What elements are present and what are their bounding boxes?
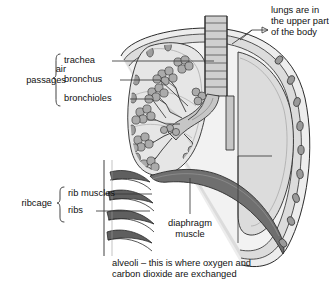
bronchioles-label: bronchioles (64, 93, 112, 104)
rib-muscle-band (107, 170, 154, 243)
alveoli-caption: alveoli – this is where oxygen and carbo… (112, 258, 251, 280)
ribs-label: ribs (68, 205, 83, 216)
rib-muscles-label: rib muscles (68, 188, 115, 199)
ribcage-left (104, 160, 154, 256)
air-passages-group-label: air passages (6, 64, 66, 86)
lung-position-note: lungs are in the upper part of the body (271, 5, 329, 39)
trachea (205, 16, 227, 96)
bronchus-label: bronchus (64, 74, 102, 85)
brace-ribcage (57, 187, 64, 222)
ribcage-group-label: ribcage (0, 198, 52, 209)
trachea-label: trachea (64, 55, 95, 66)
diaphragm-muscle-label: diaphragm muscle (160, 218, 220, 240)
